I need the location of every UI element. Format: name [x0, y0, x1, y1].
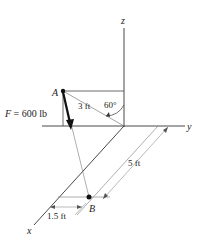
dim-5ft-arrow-bottom [103, 193, 108, 199]
y-axis-label: y [186, 121, 192, 132]
dim-1-5ft-arrow-left [50, 205, 55, 209]
point-B-label: B [89, 203, 95, 214]
x-axis-label: x [26, 225, 32, 236]
angle-label: 60° [104, 100, 117, 110]
point-B [87, 195, 92, 200]
dim-1-5ft-label: 1.5 ft [47, 211, 66, 221]
statics-diagram: z y x A B F = 600 lb 3 ft 60° 5 ft 1.5 f… [0, 0, 205, 250]
z-axis-label: z [120, 15, 125, 26]
parallel-to-x [77, 126, 158, 215]
force-value: = 600 lb [11, 108, 47, 119]
dim-1-5ft-tick [75, 203, 86, 215]
arm-length-label: 3 ft [78, 101, 91, 111]
force-arrowhead [66, 119, 74, 130]
point-A [61, 89, 65, 93]
dim-5ft-label: 5 ft [128, 158, 141, 168]
force-label: F = 600 lb [4, 108, 47, 119]
point-A-label: A [51, 87, 59, 98]
force-arrow-shaft [63, 92, 70, 123]
dim-5ft-arrow-top [163, 127, 168, 133]
